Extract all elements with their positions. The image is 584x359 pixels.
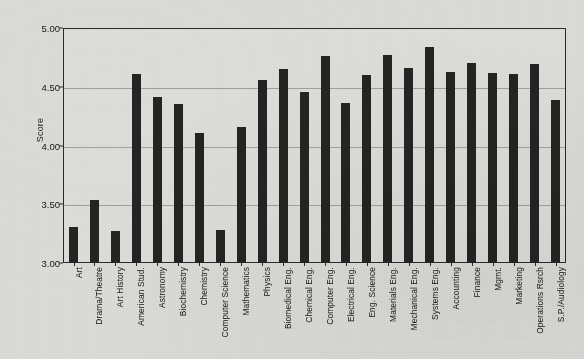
x-axis-tick-label: Finance <box>472 267 482 298</box>
x-axis-tick-mark <box>304 263 305 266</box>
x-axis-tick-mark <box>199 263 200 266</box>
x-axis-tick-label: Materials Eng. <box>388 267 398 322</box>
x-axis-tick-label: Accounting <box>451 267 461 309</box>
x-axis-tick-mark <box>346 263 347 266</box>
x-axis-tick-label: Mathematics <box>241 267 251 316</box>
gridline <box>64 88 565 89</box>
x-axis-tick: Art History <box>109 263 121 359</box>
x-axis-tick-mark <box>157 263 158 266</box>
x-axis-tick-mark <box>514 263 515 266</box>
gridline <box>64 147 565 148</box>
plot-area <box>63 28 566 263</box>
x-axis-tick: American Stud. <box>130 263 142 359</box>
bar-chart-figure: Score 5.004.504.003.503.00 ArtDrama/Thea… <box>0 0 584 359</box>
y-axis-tick-label: 4.50 <box>20 81 60 92</box>
x-axis-tick-mark <box>283 263 284 266</box>
x-axis-tick-mark <box>430 263 431 266</box>
x-axis-tick-label: Art History <box>115 267 125 307</box>
x-axis-tick: Accounting <box>445 263 457 359</box>
x-axis-tick: Art <box>68 263 80 359</box>
x-axis-tick-mark <box>493 263 494 266</box>
x-axis-tick: Biomedical Eng. <box>277 263 289 359</box>
x-axis-tick-mark <box>74 263 75 266</box>
y-axis-tick-label: 3.50 <box>20 199 60 210</box>
x-axis-tick-label: Computer Science <box>220 267 230 338</box>
x-axis-tick-mark <box>367 263 368 266</box>
x-axis-tick-label: Biochemistry <box>178 267 188 316</box>
x-axis-tick: Computer Eng. <box>319 263 331 359</box>
x-axis-tick-label: Electrical Eng. <box>346 267 356 322</box>
x-axis-tick-mark <box>388 263 389 266</box>
x-axis-tick-mark <box>94 263 95 266</box>
x-axis-tick-label: Chemical Eng. <box>304 267 314 323</box>
x-axis-tick-label: S.P./Audiology <box>556 267 566 322</box>
x-axis-tick: Physics <box>256 263 268 359</box>
x-axis-tick-mark <box>241 263 242 266</box>
x-axis-tick-label: Operations Rsrch <box>535 267 545 334</box>
x-axis-tick: Computer Science <box>214 263 226 359</box>
x-axis-tick-mark <box>115 263 116 266</box>
x-axis-tick-label: Physics <box>262 267 272 297</box>
x-axis-tick-mark <box>451 263 452 266</box>
x-axis-tick-mark <box>325 263 326 266</box>
x-axis-tick: Mgmt. <box>487 263 499 359</box>
x-axis-tick: Electrical Eng. <box>340 263 352 359</box>
x-axis-tick: Materials Eng. <box>382 263 394 359</box>
y-axis-tick-label: 3.00 <box>20 258 60 269</box>
x-axis-tick-label: Mechanical Eng. <box>409 267 419 330</box>
x-axis-tick: Chemical Eng. <box>298 263 310 359</box>
x-axis-tick-label: Chemistry <box>199 267 209 306</box>
y-axis-tick-labels: 5.004.504.003.503.00 <box>20 0 60 359</box>
x-axis-tick-labels: ArtDrama/TheatreArt HistoryAmerican Stud… <box>63 263 566 359</box>
x-axis-tick-mark <box>556 263 557 266</box>
x-axis-tick: Mechanical Eng. <box>403 263 415 359</box>
y-axis-tick-label: 4.00 <box>20 140 60 151</box>
x-axis-tick: Drama/Theatre <box>88 263 100 359</box>
x-axis-tick: Chemistry <box>193 263 205 359</box>
x-axis-tick: Mathematics <box>235 263 247 359</box>
x-axis-tick-label: Art <box>74 267 84 278</box>
x-axis-tick-mark <box>136 263 137 266</box>
x-axis-tick-label: Eng. Science <box>367 267 377 318</box>
x-axis-tick-label: Biomedical Eng. <box>283 267 293 329</box>
x-axis-tick-label: Mgmt. <box>493 267 503 291</box>
y-axis-tick-label: 5.00 <box>20 23 60 34</box>
x-axis-tick: Finance <box>466 263 478 359</box>
x-axis-tick: Eng. Science <box>361 263 373 359</box>
x-axis-tick-label: American Stud. <box>136 267 146 326</box>
x-axis-tick-mark <box>409 263 410 266</box>
x-axis-tick-mark <box>178 263 179 266</box>
x-axis-tick-label: Drama/Theatre <box>94 267 104 325</box>
x-axis-tick: S.P./Audiology <box>550 263 562 359</box>
gridline <box>64 205 565 206</box>
x-axis-tick: Biochemistry <box>172 263 184 359</box>
x-axis-tick-label: Systems Eng. <box>430 267 440 320</box>
x-axis-tick-label: Computer Eng. <box>325 267 335 325</box>
x-axis-tick: Systems Eng. <box>424 263 436 359</box>
x-axis-tick-mark <box>535 263 536 266</box>
x-axis-tick: Astronomy <box>151 263 163 359</box>
x-axis-tick-label: Marketing <box>514 267 524 305</box>
x-axis-tick-mark <box>262 263 263 266</box>
gridlines <box>64 29 565 262</box>
x-axis-tick: Marketing <box>508 263 520 359</box>
x-axis-tick-label: Astronomy <box>157 267 167 308</box>
x-axis-tick: Operations Rsrch <box>529 263 541 359</box>
